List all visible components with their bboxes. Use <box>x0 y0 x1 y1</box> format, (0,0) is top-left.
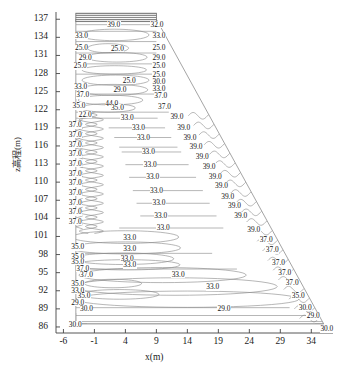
contour-value-label: 33.0 <box>75 32 89 39</box>
contour-value-label: 37.0 <box>68 160 82 167</box>
contour-value-label: 39.0 <box>195 153 209 160</box>
contour-value-label: 22.0 <box>78 111 92 118</box>
y-tick-label: 116 <box>22 141 48 151</box>
x-tick-label: 9 <box>144 337 168 347</box>
contour-value-label: 29.0 <box>217 305 231 312</box>
x-tick-label: -6 <box>51 337 75 347</box>
contour-value-label: 37.0 <box>278 269 292 276</box>
contour-value-label: 39.0 <box>183 134 197 141</box>
y-tick-label: 104 <box>22 213 48 223</box>
contour-value-label: 37.0 <box>68 131 82 138</box>
x-tick-label: 4 <box>113 337 137 347</box>
y-tick-label: 86 <box>22 322 48 332</box>
y-tick-label: 107 <box>22 195 48 205</box>
contour-value-label: 39.0 <box>189 143 203 150</box>
contour-value-label: 25.0 <box>122 77 136 84</box>
contour-value-label: 37.0 <box>68 150 82 157</box>
contour-value-label: 33.0 <box>154 212 168 219</box>
x-tick-label: 29 <box>268 337 292 347</box>
y-tick-label: 110 <box>22 177 48 187</box>
contour-value-label: 29.0 <box>152 54 166 61</box>
contour-value-label: 35.0 <box>71 243 85 250</box>
contour-value-label: 33.0 <box>123 261 137 268</box>
contour-value-label: 37.0 <box>68 179 82 186</box>
y-tick-label: 98 <box>22 250 48 260</box>
y-tick-label: 101 <box>22 231 48 241</box>
contour-value-label: 39.0 <box>234 212 248 219</box>
contour-value-label: 37.0 <box>80 271 94 278</box>
contour-value-label: 29.0 <box>78 54 92 61</box>
contour-value-label: 33.0 <box>123 245 137 252</box>
x-tick-label: 19 <box>206 337 230 347</box>
contour-plot-canvas <box>0 0 343 369</box>
contour-value-label: 37.0 <box>68 218 82 225</box>
y-tick-label: 125 <box>22 87 48 97</box>
contour-value-label: 35.0 <box>291 292 305 299</box>
contour-value-label: 37.0 <box>272 259 286 266</box>
contour-value-label: 35.0 <box>72 102 86 109</box>
contour-value-label: 33.0 <box>152 32 166 39</box>
x-tick-label: 24 <box>237 337 261 347</box>
y-tick-label: 128 <box>22 69 48 79</box>
contour-value-label: 37.0 <box>158 103 172 110</box>
contour-value-label: 37.0 <box>68 199 82 206</box>
contour-value-label: 30.0 <box>298 304 312 311</box>
contour-value-label: 29.0 <box>113 86 127 93</box>
contour-value-label: 30.0 <box>68 321 82 328</box>
contour-value-label: 33.0 <box>143 161 157 168</box>
x-axis-title: x(m) <box>145 352 163 362</box>
contour-value-label: 33.0 <box>137 134 151 141</box>
y-tick-label: 137 <box>22 14 48 24</box>
contour-value-label: 37.0 <box>68 141 82 148</box>
y-tick-label: 122 <box>22 105 48 115</box>
y-tick-label: 134 <box>22 32 48 42</box>
contour-value-label: 37.0 <box>154 92 168 99</box>
y-tick-label: 113 <box>22 159 48 169</box>
y-tick-label: 119 <box>22 123 48 133</box>
contour-value-label: 25.0 <box>75 44 89 51</box>
contour-value-label: 37.0 <box>68 121 82 128</box>
contour-value-label: 33.0 <box>146 173 160 180</box>
contour-value-label: 37.0 <box>259 236 273 243</box>
contour-value-label: 33.0 <box>132 124 146 131</box>
contour-value-label: 30.0 <box>80 305 94 312</box>
contour-value-label: 39.0 <box>208 173 222 180</box>
y-axis-title: z高程(m) <box>10 125 23 185</box>
contour-value-label: 33.0 <box>120 114 134 121</box>
contour-value-label: 33.0 <box>123 234 137 241</box>
contour-value-label: 29.0 <box>306 312 320 319</box>
x-tick-label: 34 <box>299 337 323 347</box>
contour-value-label: 39.0 <box>170 113 184 120</box>
contour-value-label: 39.0 <box>202 163 216 170</box>
contour-value-label: 39.0 <box>107 21 121 28</box>
x-tick-label: 14 <box>175 337 199 347</box>
contour-value-label: 30.0 <box>320 325 334 332</box>
contour-value-label: 39.0 <box>177 124 191 131</box>
contour-value-label: 39.0 <box>221 193 235 200</box>
x-tick-label: -1 <box>82 337 106 347</box>
contour-value-label: 33.0 <box>171 271 185 278</box>
contour-value-label: 39.0 <box>228 202 242 209</box>
contour-figure: 1371341311281251221191161131101071041019… <box>0 0 343 369</box>
y-tick-label: 89 <box>22 304 48 314</box>
y-tick-label: 92 <box>22 286 48 296</box>
contour-value-label: 37.0 <box>68 189 82 196</box>
contour-value-label: 37.0 <box>265 246 279 253</box>
y-tick-label: 131 <box>22 50 48 60</box>
contour-value-label: 37.0 <box>68 170 82 177</box>
contour-value-label: 37.0 <box>68 208 82 215</box>
contour-value-label: 39.0 <box>247 226 261 233</box>
contour-value-label: 33.0 <box>74 83 88 90</box>
contour-value-label: 33.0 <box>150 187 164 194</box>
contour-value-label: 37.0 <box>76 91 90 98</box>
y-tick-label: 95 <box>22 268 48 278</box>
contour-value-label: 25.0 <box>152 62 166 69</box>
contour-value-label: 35.0 <box>111 104 125 111</box>
contour-value-label: 33.0 <box>142 148 156 155</box>
contour-value-label: 33.0 <box>152 199 166 206</box>
contour-value-label: 25.0 <box>111 45 125 52</box>
contour-value-label: 37.0 <box>285 279 299 286</box>
contour-value-label: 39.0 <box>215 182 229 189</box>
contour-value-label: 33.0 <box>156 224 170 231</box>
contour-value-label: 25.0 <box>73 62 87 69</box>
